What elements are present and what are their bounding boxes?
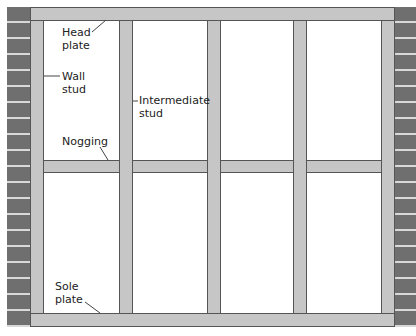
label-nogging: Nogging (62, 135, 108, 148)
label-wall-stud: Wall stud (62, 70, 86, 96)
label-head-plate: Head plate (62, 26, 91, 52)
label-intermediate-stud: Intermediate stud (139, 94, 210, 120)
label-sole-plate: Sole plate (55, 280, 83, 306)
